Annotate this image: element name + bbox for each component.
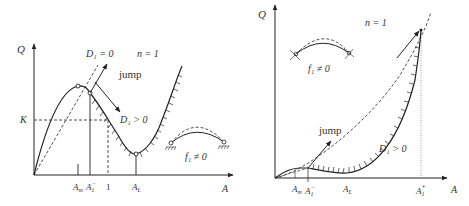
k-label: K xyxy=(19,114,28,125)
right-tick-al: AL xyxy=(342,184,353,195)
am-point xyxy=(76,84,80,88)
right-y-axis-label: Q xyxy=(258,8,266,20)
right-tick-a1-plus: A1+ xyxy=(415,184,426,197)
left-jump-label: jump xyxy=(118,68,142,80)
right-jump-label: jump xyxy=(318,124,342,136)
right-jump-arrow xyxy=(308,141,331,168)
left-n-label: n = 1 xyxy=(137,48,159,59)
left-tick-one: 1 xyxy=(106,182,111,192)
a1-plus-point xyxy=(420,29,423,32)
left-tick-al: AL xyxy=(131,182,142,193)
left-tick-am: Am xyxy=(72,182,84,193)
right-dashed-curve xyxy=(275,12,431,178)
right-beam-inset xyxy=(290,39,354,60)
right-n-label: n = 1 xyxy=(365,17,387,28)
left-y-axis-label: Q xyxy=(17,43,25,55)
right-tick-am: Am xyxy=(291,184,303,195)
right-x-axis-label: A xyxy=(450,184,458,195)
left-beam-inset xyxy=(165,127,229,150)
right-panel: Q A xyxy=(258,5,458,197)
al-point xyxy=(134,152,138,156)
left-tick-a1: A1− xyxy=(85,180,96,193)
left-d1-pos-label: D₁ > 0 xyxy=(119,114,147,125)
jump-arrow-up xyxy=(90,64,107,93)
left-x-axis-label: A xyxy=(221,183,229,194)
right-top-arrow xyxy=(397,31,419,58)
left-panel: Q A K xyxy=(17,43,233,194)
left-f1-label: f₁ ≠ 0 xyxy=(185,151,207,162)
right-d1-pos-label: D₁ > 0 xyxy=(378,143,406,154)
right-tick-a1-minus: A1− xyxy=(304,184,315,197)
right-f1-label: f₁ ≠ 0 xyxy=(308,63,330,74)
d1-zero-label: D₁ = 0 xyxy=(85,48,113,59)
diagram-canvas: Q A K xyxy=(0,0,469,206)
jump-arrow-down xyxy=(95,82,120,112)
